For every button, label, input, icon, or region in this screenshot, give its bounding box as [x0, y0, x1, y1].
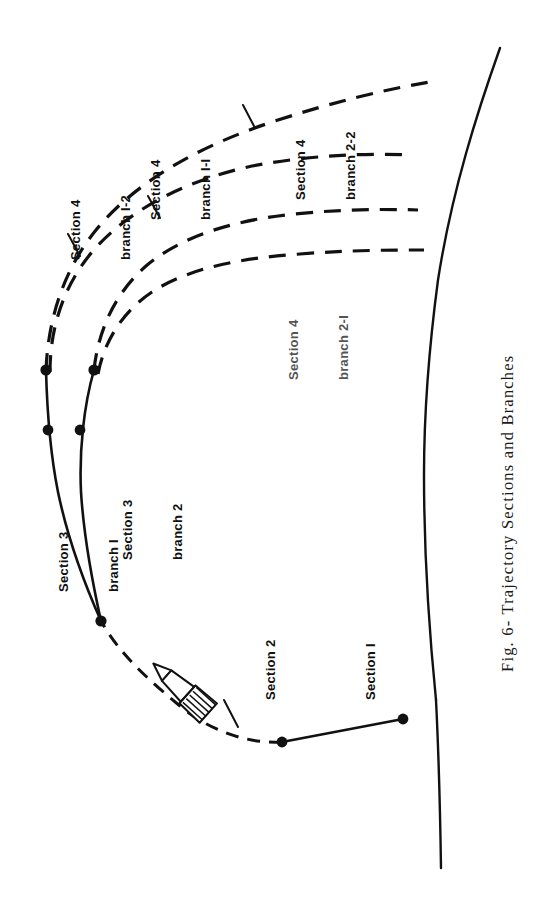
- figure-root: Section 4 branch I-2 Section 4 branch I-…: [0, 0, 544, 900]
- label-line-1: Section 3: [120, 500, 137, 561]
- label-line-2: branch 2-2: [343, 131, 360, 200]
- label-line-2: branch 2-I: [336, 315, 353, 380]
- node-section-1-end: [277, 737, 288, 748]
- node-branch-2-mid: [75, 425, 86, 436]
- label-line-1: Section 2: [263, 640, 279, 701]
- label-line-1: Section I: [363, 643, 379, 700]
- earth-surface-curve: [424, 48, 500, 700]
- label-section-4-branch-2-1: Section 4 branch 2-I: [252, 315, 387, 380]
- earth-surface-curve-lower: [436, 700, 441, 868]
- label-line-1: Section 4: [68, 195, 85, 260]
- label-section-4-branch-1-1: Section 4 branch I-I: [114, 158, 249, 220]
- node-launch-point: [398, 714, 409, 725]
- launch-vehicle-icon: [145, 654, 217, 723]
- label-line-1: Section 4: [286, 315, 303, 380]
- label-line-2: branch 2: [170, 500, 187, 561]
- node-section-2-end: [95, 615, 106, 626]
- label-line-1: Section 3: [56, 532, 73, 593]
- leader-section-2: [224, 700, 238, 727]
- figure-caption: Fig. 6- Trajectory Sections and Branches: [498, 355, 518, 672]
- label-line-1: Section 4: [148, 158, 165, 220]
- section-1-path: [282, 719, 403, 742]
- label-section-4-branch-2-2: Section 4 branch 2-2: [259, 131, 394, 200]
- node-branch-2-split: [88, 364, 99, 375]
- leader-branch-2-2: [243, 105, 255, 128]
- label-section-1: Section I: [330, 643, 411, 700]
- label-line-2: branch I-I: [198, 158, 215, 220]
- label-line-1: Section 4: [293, 131, 310, 200]
- node-branch-1-mid: [43, 425, 54, 436]
- label-section-3-branch-2: Section 3 branch 2: [86, 500, 221, 561]
- label-section-2: Section 2: [230, 640, 311, 701]
- node-branch-1-split: [40, 364, 51, 375]
